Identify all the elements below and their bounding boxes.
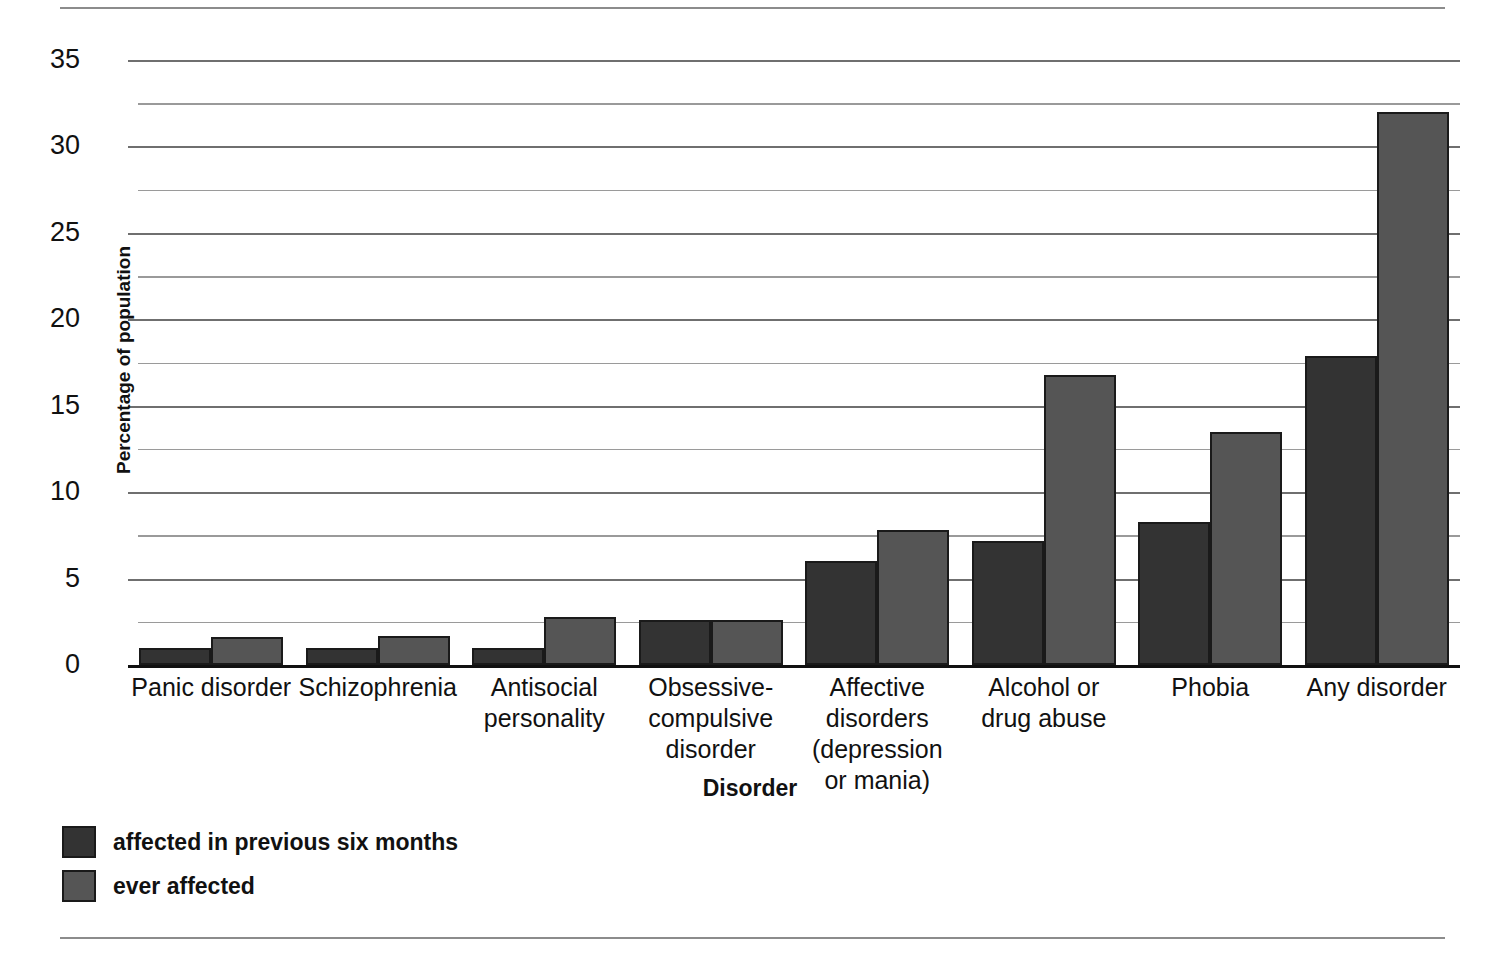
- x-label-line: drug abuse: [943, 703, 1146, 734]
- legend-swatch: [62, 826, 96, 858]
- bar: [711, 620, 783, 665]
- bar-group: [805, 60, 949, 665]
- bar: [378, 636, 450, 665]
- bar: [639, 620, 711, 665]
- bar: [139, 648, 211, 665]
- legend-swatch: [62, 870, 96, 902]
- y-axis-title: Percentage of population: [113, 246, 135, 474]
- bar-group: [139, 60, 283, 665]
- bar: [877, 530, 949, 665]
- x-label-line: (depression: [776, 734, 979, 765]
- y-tick-label: 0: [20, 651, 80, 678]
- legend-item: ever affected: [62, 864, 458, 908]
- bar-chart-figure: 05101520253035 Percentage of population …: [0, 0, 1500, 959]
- y-tick-label: 5: [20, 565, 80, 592]
- bar: [544, 617, 616, 665]
- legend-label: ever affected: [113, 873, 255, 900]
- bar: [472, 648, 544, 665]
- bar: [1305, 356, 1377, 665]
- x-axis-category-labels: Panic disorderSchizophreniaAntisocialper…: [128, 672, 1460, 782]
- y-tick-label: 15: [20, 392, 80, 419]
- bars-group: [128, 60, 1460, 665]
- bar-group: [972, 60, 1116, 665]
- bar-group: [639, 60, 783, 665]
- bar: [1044, 375, 1116, 665]
- legend-item: affected in previous six months: [62, 820, 458, 864]
- bar: [805, 561, 877, 665]
- bar-group: [472, 60, 616, 665]
- legend-label: affected in previous six months: [113, 829, 458, 856]
- x-axis-title: Disorder: [0, 775, 1500, 802]
- chart-legend: affected in previous six monthsever affe…: [62, 820, 458, 908]
- bar-group: [1138, 60, 1282, 665]
- x-axis-line: [128, 665, 1460, 668]
- bar: [306, 648, 378, 665]
- bar-group: [306, 60, 450, 665]
- y-tick-label: 10: [20, 478, 80, 505]
- x-label-line: Any disorder: [1276, 672, 1479, 703]
- y-tick-label: 20: [20, 305, 80, 332]
- bar-group: [1305, 60, 1449, 665]
- y-tick-label: 35: [20, 46, 80, 73]
- bar: [972, 541, 1044, 665]
- y-tick-label: 25: [20, 219, 80, 246]
- y-tick-label: 30: [20, 132, 80, 159]
- x-category-label: Any disorder: [1276, 672, 1479, 703]
- bar: [211, 637, 283, 665]
- bar: [1377, 112, 1449, 665]
- bar: [1138, 522, 1210, 665]
- bar: [1210, 432, 1282, 665]
- plot-area: 05101520253035 Percentage of population: [128, 60, 1460, 665]
